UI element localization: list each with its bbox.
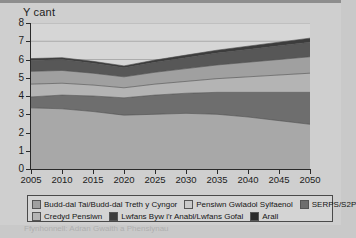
x-axis-tick-label: 2005 (14, 175, 48, 185)
x-axis-tick-label: 2050 (293, 175, 327, 185)
legend-item-label: SERPS/S2P (312, 200, 356, 209)
y-axis-tick-mark (26, 41, 31, 42)
legend-row-2: Credyd Pensiwn Lwfans Byw i'r Anabl/Lwfa… (32, 210, 328, 222)
x-axis-line (30, 169, 311, 170)
legend-item-label: Credyd Pensiwn (44, 212, 102, 221)
y-axis-tick-label: 2 (4, 128, 24, 138)
y-axis-tick-label: 1 (4, 146, 24, 156)
y-axis-tick-label: 5 (4, 73, 24, 83)
legend-item-credyd-pensiwn[interactable]: Credyd Pensiwn (32, 212, 102, 221)
legend-item-serps-s2p[interactable]: SERPS/S2P (300, 200, 356, 209)
x-axis-tick-label: 2030 (169, 175, 203, 185)
y-axis-tick-mark (26, 60, 31, 61)
y-axis-tick-mark (26, 23, 31, 24)
y-axis-tick-label: 0 (4, 164, 24, 174)
y-axis-tick-mark (26, 96, 31, 97)
legend-swatch-icon (250, 212, 259, 221)
y-axis-tick-label: 4 (4, 91, 24, 101)
caption-strip: Ffynhonnell: Adran Gwaith a Phensiynau (0, 225, 341, 238)
legend-swatch-icon (109, 212, 118, 221)
legend-swatch-icon (32, 200, 41, 209)
x-axis-tick-label: 2015 (76, 175, 110, 185)
x-axis-tick-label: 2045 (262, 175, 296, 185)
legend-swatch-icon (184, 200, 193, 209)
y-axis-tick-label: 3 (4, 109, 24, 119)
legend-swatch-icon (32, 212, 41, 221)
legend-row-1: Budd-dal Tai/Budd-dal Treth y Cyngor Pen… (32, 198, 328, 210)
legend-item-label: Pensiwn Gwladol Sylfaenol (196, 200, 293, 209)
stacked-area-svg (31, 23, 310, 169)
legend-item-label: Lwfans Byw i'r Anabl/Lwfans Gofal (121, 212, 243, 221)
x-axis-tick-label: 2020 (107, 175, 141, 185)
source-caption: Ffynhonnell: Adran Gwaith a Phensiynau (24, 225, 169, 233)
y-axis-tick-mark (26, 151, 31, 152)
legend-item-budd-dal-tai[interactable]: Budd-dal Tai/Budd-dal Treth y Cyngor (32, 200, 177, 209)
y-axis-tick-mark (26, 114, 31, 115)
x-axis-tick-label: 2035 (200, 175, 234, 185)
chart-legend: Budd-dal Tai/Budd-dal Treth y Cyngor Pen… (27, 195, 333, 222)
x-axis-tick-label: 2010 (45, 175, 79, 185)
y-axis-tick-label: 6 (4, 55, 24, 65)
legend-item-lwfans-byw[interactable]: Lwfans Byw i'r Anabl/Lwfans Gofal (109, 212, 243, 221)
plot-area (31, 23, 310, 169)
legend-item-label: Arall (262, 212, 278, 221)
y-axis-tick-mark (26, 78, 31, 79)
legend-item-pensiwn-gwladol-sylfaenol[interactable]: Pensiwn Gwladol Sylfaenol (184, 200, 293, 209)
y-axis-tick-mark (26, 133, 31, 134)
y-axis-tick-label: 8 (4, 18, 24, 28)
legend-swatch-icon (300, 200, 309, 209)
x-axis-tick-label: 2040 (231, 175, 265, 185)
y-axis-tick-label: 7 (4, 36, 24, 46)
legend-item-arall[interactable]: Arall (250, 212, 278, 221)
page-title: Y cant (23, 6, 55, 18)
x-axis-tick-label: 2025 (138, 175, 172, 185)
legend-item-label: Budd-dal Tai/Budd-dal Treth y Cyngor (44, 200, 177, 209)
